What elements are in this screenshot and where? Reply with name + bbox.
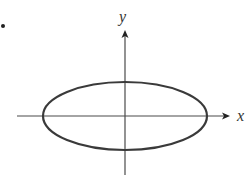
bullet-marker <box>1 24 5 28</box>
y-axis-label: y <box>117 8 127 26</box>
ellipse-diagram: x y <box>0 0 250 183</box>
x-axis-label: x <box>236 107 244 124</box>
